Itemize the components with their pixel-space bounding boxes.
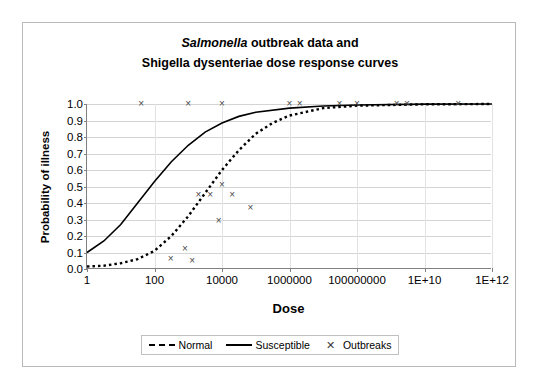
chart-title-line-1-rest: outbreak data and <box>247 36 358 50</box>
x-tick-label: 1E+10 <box>408 274 442 286</box>
y-tick-label: 0.5 <box>67 181 83 193</box>
dashed-line-icon <box>149 344 175 346</box>
outbreak-marker: × <box>248 203 254 213</box>
outbreak-marker: × <box>354 99 360 109</box>
y-axis-title-text: Probability of illness <box>39 130 51 242</box>
y-tick-label: 0.9 <box>67 115 83 127</box>
chart-title: Salmonella outbreak data and Shigella dy… <box>23 33 517 73</box>
y-tick-label: 0.4 <box>67 197 83 209</box>
x-tick-label: 1 <box>84 274 90 286</box>
chart-frame: Salmonella outbreak data and Shigella dy… <box>22 22 516 367</box>
curve-susceptible <box>87 104 492 253</box>
chart-title-organism: Salmonella <box>181 36 247 50</box>
outbreak-marker: × <box>182 244 188 254</box>
outbreak-marker: × <box>185 99 191 109</box>
x-tick-label: 10000 <box>206 274 238 286</box>
outbreak-marker: × <box>404 99 410 109</box>
outbreak-marker: × <box>336 99 342 109</box>
legend-label-outbreaks: Outbreaks <box>343 339 391 351</box>
legend-label-susceptible: Susceptible <box>256 339 310 351</box>
outbreak-marker: × <box>168 254 174 264</box>
outbreak-marker: × <box>207 190 213 200</box>
outbreak-marker: × <box>195 190 201 200</box>
chart-title-line-1: Salmonella outbreak data and <box>23 33 517 53</box>
x-tick-mark <box>492 268 493 272</box>
legend-item-outbreaks[interactable]: ✕ Outbreaks <box>323 339 391 352</box>
y-tick-label: 1.0 <box>67 98 83 110</box>
x-tick-label: 100 <box>145 274 164 286</box>
y-tick-label: 0.3 <box>67 214 83 226</box>
y-tick-label: 0.6 <box>67 164 83 176</box>
gridline <box>492 104 493 268</box>
y-tick-label: 0.7 <box>67 148 83 160</box>
outbreak-marker: × <box>455 99 461 109</box>
curve-normal <box>87 104 492 267</box>
outbreak-marker: × <box>219 99 225 109</box>
outbreak-marker: × <box>138 99 144 109</box>
outbreak-marker: × <box>394 99 400 109</box>
outbreak-marker: × <box>189 256 195 266</box>
chart-title-line-2: Shigella dysenteriae dose response curve… <box>23 53 517 73</box>
outbreak-marker: × <box>229 190 235 200</box>
outbreak-marker: × <box>216 216 222 226</box>
y-tick-label: 0.0 <box>67 263 83 275</box>
dose-response-curves <box>87 104 492 269</box>
x-tick-label: 1000000 <box>267 274 312 286</box>
outbreak-marker: × <box>219 180 225 190</box>
legend-label-normal: Normal <box>179 339 213 351</box>
legend-item-normal[interactable]: Normal <box>149 339 213 351</box>
legend-item-susceptible[interactable]: Susceptible <box>226 339 310 351</box>
x-axis-title: Dose <box>86 301 491 316</box>
x-tick-label: 100000000 <box>328 274 386 286</box>
y-tick-label: 0.1 <box>67 247 83 259</box>
y-tick-label: 0.8 <box>67 131 83 143</box>
outbreak-marker: × <box>287 99 293 109</box>
x-tick-label: 1E+12 <box>475 274 509 286</box>
cross-marker-icon: ✕ <box>323 339 339 352</box>
outbreak-marker: × <box>297 99 303 109</box>
solid-line-icon <box>226 344 252 346</box>
y-tick-label: 0.2 <box>67 230 83 242</box>
plot-area: 0.00.10.20.30.40.50.60.70.80.91.0 110010… <box>86 104 491 269</box>
chart-legend: Normal Susceptible ✕ Outbreaks <box>141 335 399 355</box>
y-axis-title: Probability of illness <box>37 104 53 269</box>
